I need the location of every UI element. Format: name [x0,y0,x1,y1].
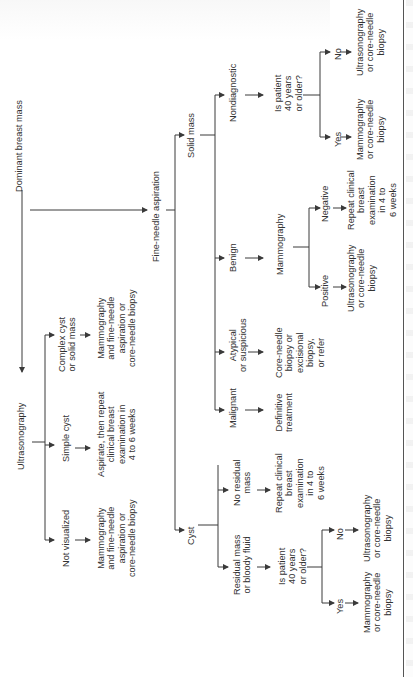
node-malignant: Malignant [228,388,238,428]
node-malignant-action: Definitive treatment [274,393,295,432]
node-cyst-no-action: Ultrasonography or core-needle biopsy [362,495,393,562]
node-benign-negative: Negative [320,186,330,222]
node-nondiagnostic: Nondiagnostic [228,64,238,122]
node-nondiag-yes: Yes [333,132,343,147]
node-us-complex-action: Mammography and fine-needle aspiration o… [96,289,138,367]
node-us-simple-cyst: Simple cyst [61,415,71,462]
node-us-simple-action: Aspirate, then repeat clinical breast ex… [96,392,138,477]
node-benign: Benign [228,243,238,272]
node-cyst-no-residual: No residual mass [232,460,253,506]
node-nondiag-no: No [333,48,343,60]
node-cyst-no-residual-action: Repeat clinical breast examination in 4 … [274,453,326,513]
node-ultrasonography: Ultrasonography [16,403,26,470]
node-nondiag-question: Is patient 40 years or older? [273,75,304,112]
flowchart-canvas: Dominant breast mass Ultrasonography Com… [0,0,413,677]
node-benign-positive-action: Ultrasonography or core-needle biopsy [346,245,377,312]
node-dominant-breast-mass: Dominant breast mass [14,100,24,192]
bleed-through-margin [406,0,413,677]
node-benign-mammography: Mammography [275,214,285,275]
node-us-complex: Complex cyst or solid mass [57,317,78,372]
node-cyst-yes-action: Mammography or core-needle biopsy [362,572,393,633]
node-cyst-residual-question: Is patient 40 years or older? [277,548,308,585]
node-atypical-action: Core-needle biopsy or excisional biopsy,… [274,327,326,378]
node-benign-negative-action: Repeat clinical breast examination in 4 … [346,170,398,230]
node-cyst: Cyst [186,527,196,545]
node-nondiag-yes-action: Mammography or core-needle biopsy [355,99,386,160]
node-fine-needle-aspiration: Fine-needle aspiration [151,171,161,262]
node-solid-mass: Solid mass [186,113,196,158]
page-edge-rule [403,0,404,677]
node-us-not-visualized-action: Mammography and fine-needle aspiration o… [96,499,138,577]
node-us-not-visualized: Not visualized [61,510,71,567]
node-cyst-no: No [335,528,345,540]
node-cyst-residual: Residual mass or bloody fluid [232,535,253,595]
node-atypical: Atypical or suspicious [228,318,249,372]
node-cyst-yes: Yes [335,599,345,614]
node-nondiag-no-action: Ultrasonography or core-needle biopsy [355,9,386,76]
node-benign-positive: Positive [320,275,330,307]
